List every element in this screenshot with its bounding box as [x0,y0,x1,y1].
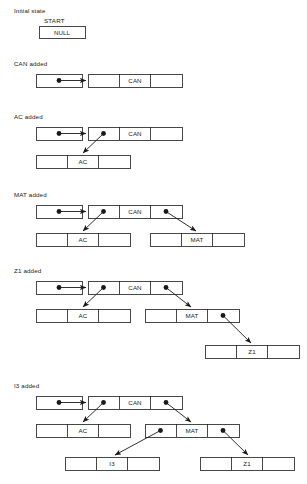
can-right-dot-s5 [164,285,169,290]
can-right-dot-s6 [164,400,169,405]
node-key-can-s2: CAN [119,77,151,84]
node-key-can-s3: CAN [119,130,151,137]
binary-tree-diagram: Initial state START NULL CAN added CAN A… [0,0,307,484]
node-key-mat-s4: MAT [181,236,213,243]
diagram-vector-layer [0,0,307,484]
start-dot-s3 [57,131,62,136]
mat-right-dot-s5 [221,313,226,318]
stage-caption-can: CAN added [14,60,47,67]
mat-right-dot-s6 [221,428,226,433]
arrow-can-mat-s6 [166,403,191,423]
arrow-can-ac-s3 [83,134,104,154]
stage-caption-mat: MAT added [14,191,47,198]
start-pointer-box-can [36,74,82,87]
start-dot-s2 [57,78,62,83]
pointer-arrows [59,81,251,456]
start-pointer-box-z1 [36,281,82,294]
node-key-can-s5: CAN [119,284,151,291]
node-key-mat-s6: MAT [176,427,208,434]
node-key-ac-s5: AC [67,312,99,319]
stage-caption-initial: Initial state [14,7,46,14]
can-left-dot-s5 [101,285,106,290]
arrow-mat-z1-s5 [223,316,251,344]
start-pointer-box-ac [36,127,82,140]
arrow-can-ac-s5 [83,288,104,308]
null-cell-label: NULL [39,29,85,36]
stage-caption-z1: Z1 added [14,267,41,274]
node-key-ac-s6: AC [67,427,99,434]
arrow-mat-i3-s6 [115,431,161,456]
can-left-dot-s3 [101,131,106,136]
node-key-can-s6: CAN [119,399,151,406]
start-dot-s5 [57,285,62,290]
node-key-can-s4: CAN [119,208,151,215]
start-pointer-box-i3 [36,396,82,409]
can-left-dot-s6 [101,400,106,405]
start-pointer-box-mat [36,205,82,218]
node-key-ac-s4: AC [67,236,99,243]
arrow-can-mat-s5 [166,288,191,308]
start-label-initial: START [44,17,65,24]
node-key-z1-s6: Z1 [231,460,263,467]
arrow-can-mat-s4 [166,212,196,232]
node-key-ac-s3: AC [67,158,99,165]
can-left-dot-s4 [101,209,106,214]
node-key-z1-s5: Z1 [236,348,268,355]
start-dot-s4 [57,209,62,214]
arrow-can-ac-s4 [83,212,104,232]
arrow-mat-z1-s6 [223,431,248,456]
stage-caption-ac: AC added [14,113,43,120]
stage-caption-i3: I3 added [14,382,39,389]
can-right-dot-s4 [164,209,169,214]
node-key-mat-s5: MAT [176,312,208,319]
start-dot-s6 [57,400,62,405]
mat-left-dot-s6 [158,428,163,433]
arrow-can-ac-s6 [83,403,104,423]
node-key-i3-s6: I3 [96,460,128,467]
